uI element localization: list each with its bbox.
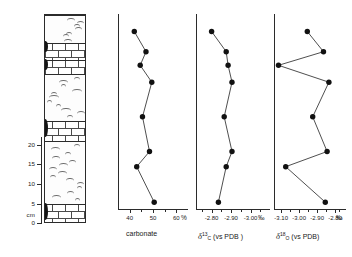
x-minor-tick: [260, 209, 261, 212]
data-point: [324, 149, 329, 154]
data-point: [310, 114, 315, 119]
marl-wavy-mark: [74, 144, 80, 147]
data-point: [321, 49, 326, 54]
x-tick-label: 50: [150, 215, 157, 221]
x-minor-tick: [308, 209, 309, 212]
depth-tick-label-20: 20: [28, 142, 35, 148]
d13c-unit-symbol: ‰: [258, 214, 265, 221]
x-minor-tick: [141, 209, 142, 212]
marl-wavy-mark: [59, 80, 68, 83]
x-tick: [212, 209, 213, 213]
marl-wavy-mark: [69, 160, 76, 163]
x-tick-label: -3.10: [274, 215, 288, 221]
depth-tick-10: [37, 184, 42, 185]
litho-bed-limestone: [45, 60, 85, 74]
brick-row: [45, 128, 85, 135]
bed-contact-line: [45, 43, 85, 44]
d13c-series: [196, 14, 270, 210]
x-tick: [335, 209, 336, 213]
x-tick-label: -3.00: [292, 215, 306, 221]
depth-tick-label-0: 0: [31, 220, 35, 226]
x-minor-tick: [241, 209, 242, 212]
marl-wavy-mark: [64, 39, 72, 42]
x-tick: [317, 209, 318, 213]
marl-wavy-mark: [61, 108, 70, 111]
d13c-element: C: [208, 235, 212, 241]
x-tick: [231, 209, 232, 213]
brick-row: [45, 43, 85, 50]
data-point: [138, 63, 143, 68]
data-point: [225, 63, 230, 68]
data-point: [224, 49, 229, 54]
x-tick-label: -3.00: [244, 215, 258, 221]
depth-tick-label-5: 5: [31, 201, 35, 207]
x-tick: [281, 209, 282, 213]
data-point: [209, 29, 214, 34]
data-point: [152, 200, 157, 205]
depth-tick-15: [37, 164, 42, 165]
depth-unit-label: cm: [27, 212, 35, 218]
x-tick: [176, 209, 177, 213]
marl-wavy-mark: [50, 175, 56, 178]
marl-wavy-mark: [52, 156, 60, 159]
brick-row: [45, 50, 85, 57]
depth-axis-line: [41, 137, 42, 223]
d18o-unit-symbol: ‰: [336, 214, 343, 221]
d13c-panel: -2.80-2.90-3.00 ‰ δ13C (vs PDB ): [196, 14, 270, 223]
marl-wavy-mark: [77, 182, 85, 185]
x-minor-tick: [202, 209, 203, 212]
brick-row: [45, 211, 85, 218]
depth-scale: 05101520cm: [14, 137, 42, 223]
carbonate-unit-symbol: %: [181, 214, 187, 221]
data-point: [147, 149, 152, 154]
depth-tick-label-10: 10: [28, 181, 35, 187]
marl-wavy-mark: [74, 24, 80, 27]
x-tick: [251, 209, 252, 213]
marl-wavy-mark: [72, 89, 82, 92]
figure-root: 05101520cm 405060 % carbonate -2.80-2.90…: [0, 0, 352, 257]
bed-contact-line: [45, 74, 85, 75]
marl-wavy-mark: [75, 198, 80, 201]
marl-wavy-mark: [74, 77, 80, 80]
data-point: [229, 80, 234, 85]
marl-wavy-mark: [47, 100, 52, 103]
d18o-panel: -3.10-3.00-2.90-2.80 ‰ δ18O (vs PDB): [274, 14, 346, 223]
bed-contact-line: [45, 141, 85, 142]
data-point: [222, 114, 227, 119]
d18o-element: O: [286, 235, 290, 241]
litho-bed-marl: [45, 74, 85, 121]
data-point: [283, 164, 288, 169]
litho-bed-limestone: [45, 43, 85, 60]
x-tick: [130, 209, 131, 213]
brick-row: [45, 204, 85, 211]
data-point: [276, 63, 281, 68]
x-minor-tick: [339, 209, 340, 212]
bed-contact-line: [45, 204, 85, 205]
data-point: [224, 164, 229, 169]
data-point: [149, 80, 154, 85]
data-point: [216, 200, 221, 205]
bed-contact-line: [45, 121, 85, 122]
litho-bed-limestone: [45, 121, 85, 141]
d18o-series: [274, 14, 346, 210]
d18o-axis-caption: δ18O (vs PDB): [276, 230, 319, 242]
brick-row: [45, 67, 85, 74]
data-point: [305, 29, 310, 34]
x-minor-tick: [290, 209, 291, 212]
x-tick-label: -2.90: [310, 215, 324, 221]
x-tick-label: 40: [126, 215, 133, 221]
depth-tick-label-15: 15: [28, 161, 35, 167]
marl-wavy-mark: [58, 171, 67, 174]
marl-wavy-mark: [75, 27, 82, 30]
x-tick: [153, 209, 154, 213]
data-point: [132, 29, 137, 34]
d13c-reference: (vs PDB ): [213, 233, 243, 240]
data-point: [326, 80, 331, 85]
marl-wavy-mark: [59, 163, 68, 166]
brick-row: [45, 121, 85, 128]
x-tick-label: -2.80: [205, 215, 219, 221]
marl-wavy-mark: [77, 111, 85, 114]
data-point: [134, 164, 139, 169]
marl-wavy-mark: [77, 186, 83, 189]
data-point: [323, 200, 328, 205]
